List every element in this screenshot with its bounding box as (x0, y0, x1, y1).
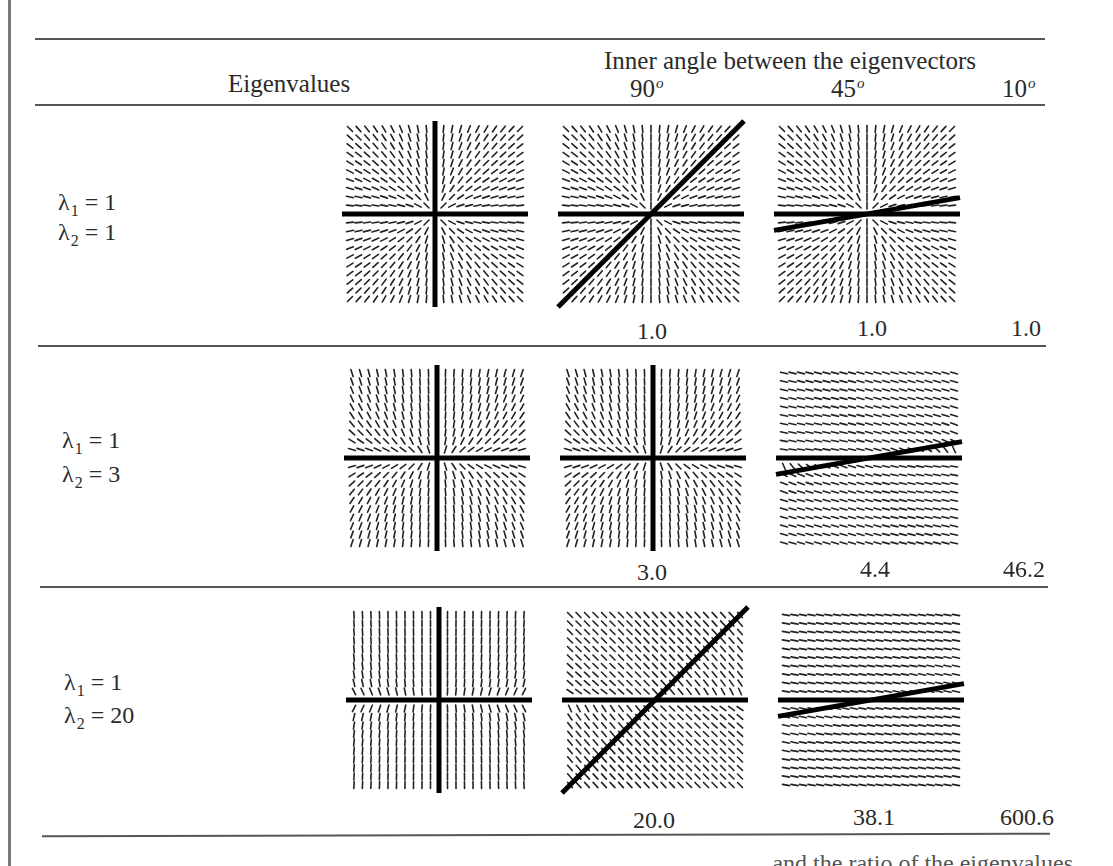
value-r1-c3: 1.0 (1011, 316, 1041, 340)
row-2-lambda1: λ1 = 1 (62, 428, 120, 457)
row-3-lambda1: λ1 = 1 (64, 670, 122, 699)
row-2-lambda2: λ2 = 3 (62, 462, 120, 491)
vector-field-figure-r3-c3 (776, 600, 966, 800)
table-top-rule (35, 38, 1045, 40)
vector-field-figure-r1-c3 (772, 114, 962, 314)
table-bottom-rule (42, 833, 1050, 838)
caption-fragment: and the ratio of the eigenvalues (60, 852, 1113, 866)
angle-heading-45: 45o (831, 76, 865, 101)
vector-field-figure-r1-c1 (340, 114, 530, 314)
value-r3-c2: 38.1 (853, 805, 895, 829)
eigenvalues-column-heading: Eigenvalues (228, 71, 350, 96)
vector-field-figure-r2-c3 (774, 358, 964, 558)
value-r2-c1: 3.0 (637, 560, 667, 584)
inner-angle-column-group-heading: Inner angle between the eigenvectors (604, 48, 976, 73)
angle-heading-10: 10o (1002, 76, 1036, 101)
header-bottom-rule (35, 104, 1045, 106)
value-r2-c2: 4.4 (860, 557, 890, 581)
value-r3-c1: 20.0 (633, 808, 675, 832)
row-2-bottom-rule (40, 586, 1048, 588)
value-r3-c3: 600.6 (1000, 805, 1054, 829)
row-1-lambda1: λ1 = 1 (58, 190, 116, 219)
vector-field-figure-r2-c1 (342, 358, 532, 558)
row-3-lambda2: λ2 = 20 (64, 703, 134, 732)
value-r1-c1: 1.0 (637, 319, 667, 343)
vector-field-figure-r1-c2 (556, 114, 746, 314)
vector-field-figure-r3-c2 (560, 600, 750, 800)
value-r1-c2: 1.0 (857, 316, 887, 340)
vector-field-figure-r2-c2 (558, 358, 748, 558)
value-r2-c3: 46.2 (1003, 557, 1045, 581)
vector-field-figure-r3-c1 (344, 600, 534, 800)
page-edge-line (8, 0, 11, 866)
row-1-lambda2: λ2 = 1 (58, 220, 116, 249)
row-1-bottom-rule (38, 345, 1046, 347)
angle-heading-90: 90o (630, 76, 664, 101)
